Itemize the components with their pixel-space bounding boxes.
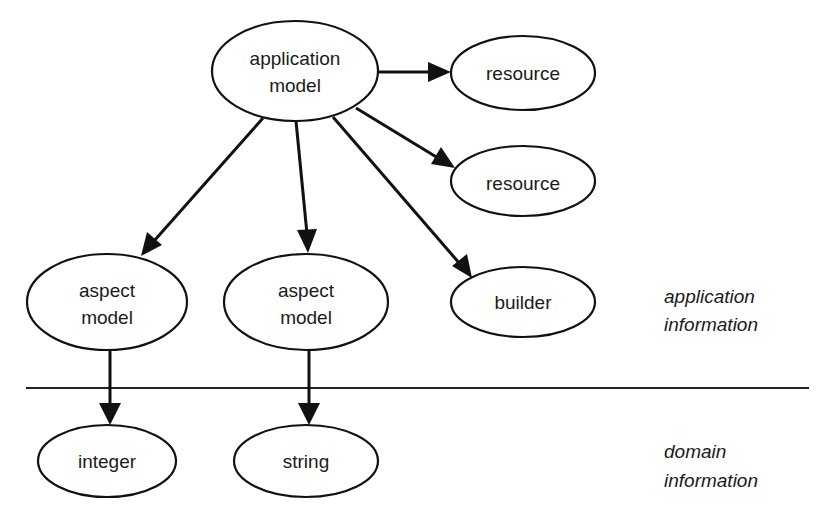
region-label-application-information: application information	[664, 286, 758, 335]
node-label: resource	[486, 173, 560, 194]
region-label-line: application	[664, 286, 755, 307]
node-integer[interactable]: integer	[38, 425, 176, 497]
node-string[interactable]: string	[234, 425, 378, 497]
node-label: application	[250, 48, 341, 69]
node-resource-2[interactable]: resource	[451, 146, 595, 216]
node-label: model	[81, 307, 133, 328]
region-label-line: domain	[664, 441, 726, 462]
region-label-domain-information: domain information	[664, 441, 758, 491]
node-label: aspect	[79, 280, 136, 301]
node-label: model	[269, 75, 321, 96]
edge-app-to-aspect-model-1	[141, 118, 263, 256]
node-label: builder	[494, 292, 552, 313]
node-label: aspect	[278, 280, 335, 301]
node-label: model	[280, 307, 332, 328]
region-label-line: information	[664, 470, 758, 491]
edge-app-to-aspect-model-2	[296, 121, 317, 253]
node-application-model[interactable]: application model	[212, 21, 378, 121]
node-label: resource	[486, 63, 560, 84]
node-label: string	[283, 451, 329, 472]
diagram-canvas: application model resource resource aspe…	[0, 0, 829, 522]
node-label: integer	[78, 451, 137, 472]
node-aspect-model-1[interactable]: aspect model	[27, 254, 187, 350]
arrowhead-icon	[428, 62, 451, 82]
node-builder[interactable]: builder	[451, 267, 595, 337]
region-label-line: information	[664, 314, 758, 335]
node-resource-1[interactable]: resource	[451, 36, 595, 110]
edge-app-to-resource-1	[378, 62, 451, 82]
arrowhead-icon	[298, 403, 320, 425]
arrowhead-icon	[99, 403, 121, 425]
arrowhead-icon	[297, 229, 317, 253]
edge-app-to-builder	[333, 117, 472, 278]
node-aspect-model-2[interactable]: aspect model	[224, 254, 388, 350]
